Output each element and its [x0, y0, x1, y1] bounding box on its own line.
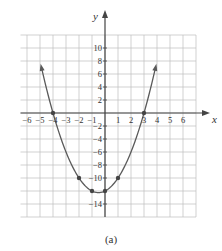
- axes: [21, 10, 211, 217]
- y-tick-label: −4: [93, 134, 103, 144]
- data-point: [116, 176, 120, 180]
- y-tick-label: 2: [98, 95, 102, 105]
- x-tick-label: −3: [61, 115, 70, 125]
- x-tick-label: 6: [181, 115, 185, 125]
- x-tick-label: 5: [168, 115, 172, 125]
- y-tick-label: 10: [94, 43, 103, 53]
- y-axis-arrow-icon: [102, 10, 108, 18]
- y-axis-label: y: [92, 10, 98, 22]
- y-tick-label: −14: [89, 199, 103, 209]
- curve-arrow-icon: [40, 64, 45, 71]
- y-tick-label: 6: [98, 69, 102, 79]
- data-point: [90, 189, 94, 193]
- y-tick-label: 8: [98, 56, 102, 66]
- x-axis-label: x: [211, 113, 217, 125]
- x-tick-label: 2: [129, 115, 133, 125]
- y-tick-label: −8: [93, 160, 102, 170]
- y-tick-label: −2: [93, 121, 102, 131]
- x-tick-label: −5: [35, 115, 44, 125]
- data-point: [103, 189, 107, 193]
- parabola-graph: −6−5−4−3−2−1123456108642−2−4−6−8−10−14xy: [0, 0, 222, 251]
- x-tick-label: 3: [142, 115, 146, 125]
- x-tick-label: 4: [155, 115, 160, 125]
- y-tick-label: −10: [89, 173, 102, 183]
- y-tick-label: −6: [93, 147, 102, 157]
- x-tick-label: −6: [22, 115, 31, 125]
- data-point: [77, 176, 81, 180]
- x-tick-label: −2: [74, 115, 83, 125]
- x-tick-label: −4: [48, 115, 58, 125]
- figure-caption: (a): [0, 233, 222, 245]
- x-tick-label: 1: [116, 115, 120, 125]
- x-axis-arrow-icon: [202, 110, 210, 116]
- curve-arrow-icon: [152, 64, 157, 71]
